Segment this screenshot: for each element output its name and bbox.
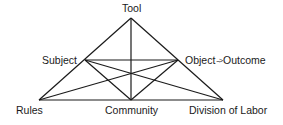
label-object-outcome: Object-->Outcome: [185, 55, 266, 66]
activity-triangle-diagram: Tool Subject Object-->Outcome Rules Comm…: [0, 0, 283, 125]
edge-object-rules: [39, 60, 178, 100]
label-outcome: Outcome: [223, 54, 266, 66]
label-object: Object: [185, 54, 215, 66]
label-community: Community: [105, 105, 158, 116]
arrow-icon: -->: [216, 57, 222, 64]
label-rules: Rules: [16, 105, 43, 116]
label-tool: Tool: [122, 3, 141, 14]
edge-subject-division: [85, 60, 223, 100]
label-subject: Subject: [42, 55, 77, 66]
label-division-of-labor: Division of Labor: [189, 105, 267, 116]
